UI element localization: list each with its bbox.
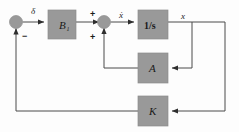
wire-x-to-a-block xyxy=(172,22,192,68)
wire-k-to-sum-left xyxy=(16,29,138,112)
block-integrator-label: 1/s xyxy=(144,20,156,31)
summing-junction-left xyxy=(10,16,23,29)
signal-xdot-label: ẋ xyxy=(118,10,123,20)
wire-x-to-k-block xyxy=(172,22,225,111)
block-b1-label: B xyxy=(59,19,66,31)
sign-plus-sum-mid-top: + xyxy=(90,9,95,19)
sign-plus-sum-mid-bottom: + xyxy=(90,32,95,42)
signal-delta-label: δ xyxy=(31,6,36,16)
summing-junction-mid xyxy=(98,16,111,29)
block-k-label: K xyxy=(148,105,157,117)
block-diagram-canvas: B 1 1/s A K δ ẋ x − + + xyxy=(0,0,239,132)
block-diagram-svg: B 1 1/s A K δ ẋ x − + + xyxy=(0,0,239,132)
sign-minus-sum-left: − xyxy=(22,31,27,41)
wire-a-to-sum-mid xyxy=(104,28,138,68)
block-b1-subscript: 1 xyxy=(67,26,70,32)
block-a-label: A xyxy=(148,62,156,74)
signal-x-label: x xyxy=(180,11,185,21)
